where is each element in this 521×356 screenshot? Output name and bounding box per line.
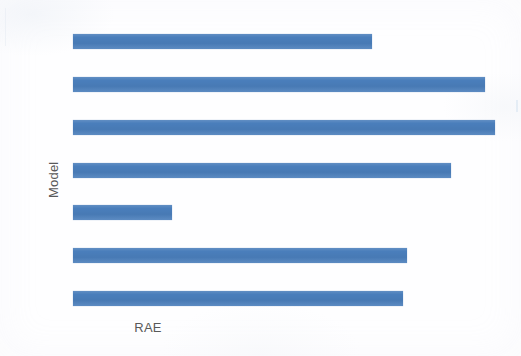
plot-area	[0, 0, 521, 356]
x-axis-title: RAE	[0, 320, 521, 335]
bar-2	[73, 77, 485, 92]
bar-7	[73, 291, 403, 306]
bar-4	[73, 163, 451, 178]
bar-1	[73, 34, 372, 49]
y-axis-title: Model	[46, 162, 61, 198]
bar-5	[73, 205, 172, 220]
bar-6	[73, 248, 407, 263]
bar-chart-figure: Model RAE	[0, 0, 521, 356]
bar-3	[73, 120, 495, 135]
